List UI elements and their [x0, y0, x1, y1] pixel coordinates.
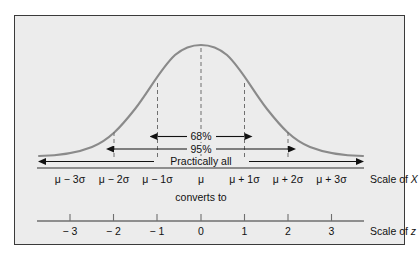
band-68-label: 68%	[187, 131, 214, 142]
x-tick-minus-3sigma: μ − 3σ	[55, 174, 85, 185]
x-axis-title-symbol: X	[411, 173, 418, 185]
z-tick-zero: 0	[198, 226, 204, 237]
z-axis-ticks	[70, 214, 332, 221]
x-tick-minus-2sigma: μ − 2σ	[99, 174, 129, 185]
band-all-label: Practically all	[167, 156, 234, 167]
z-tick-1: 1	[242, 226, 248, 237]
normal-distribution-figure: 68% 95% Practically all μ − 3σ μ − 2σ μ …	[14, 15, 405, 245]
x-tick-plus-1sigma: μ + 1σ	[229, 174, 259, 185]
z-tick-minus-2: − 2	[106, 226, 121, 237]
z-tick-minus-1: − 1	[150, 226, 165, 237]
x-tick-mean: μ	[198, 174, 204, 185]
x-axis-title-text: Scale of	[370, 173, 411, 185]
z-tick-minus-3: − 3	[63, 226, 78, 237]
z-axis-title-text: Scale of	[370, 225, 411, 237]
x-tick-plus-3sigma: μ + 3σ	[316, 174, 346, 185]
band-95-label: 95%	[187, 144, 214, 155]
z-axis-title: Scale of z	[370, 226, 416, 237]
x-axis-title: Scale of X	[370, 174, 418, 185]
z-axis-title-symbol: z	[411, 225, 416, 237]
converts-to-label: converts to	[175, 192, 226, 203]
z-tick-3: 3	[329, 226, 335, 237]
x-tick-minus-1sigma: μ − 1σ	[142, 174, 172, 185]
x-tick-plus-2sigma: μ + 2σ	[273, 174, 303, 185]
z-tick-2: 2	[285, 226, 291, 237]
